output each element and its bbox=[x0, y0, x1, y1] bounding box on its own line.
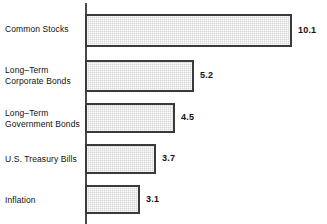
bar-value-label: 5.2 bbox=[200, 71, 213, 80]
bar bbox=[85, 185, 140, 214]
bar-value-label: 3.1 bbox=[146, 195, 159, 204]
bar bbox=[85, 60, 194, 92]
category-label: U.S. Treasury Bills bbox=[5, 154, 83, 165]
bar-value-label: 10.1 bbox=[298, 26, 316, 35]
bar-value-label: 4.5 bbox=[181, 113, 194, 122]
bar bbox=[85, 144, 156, 174]
bar-chart: Common Stocks10.1Long–Term Corporate Bon… bbox=[0, 0, 327, 224]
plot-area: Common Stocks10.1Long–Term Corporate Bon… bbox=[0, 0, 327, 224]
bar bbox=[85, 103, 175, 133]
bar-value-label: 3.7 bbox=[162, 154, 175, 163]
category-label: Inflation bbox=[5, 195, 83, 206]
category-label: Long–Term Government Bonds bbox=[5, 108, 83, 129]
bar bbox=[85, 14, 292, 47]
category-label: Common Stocks bbox=[5, 24, 83, 35]
category-label: Long–Term Corporate Bonds bbox=[5, 65, 83, 86]
